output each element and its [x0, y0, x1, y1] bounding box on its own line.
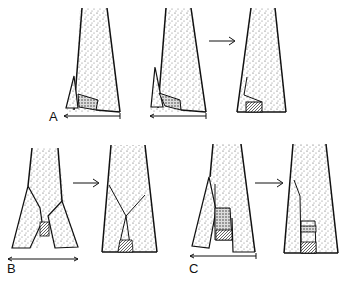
panel-a-step-1	[64, 8, 120, 119]
panel-c-label: C	[189, 261, 198, 276]
arrow-c	[255, 179, 283, 187]
panel-c-step-2	[284, 144, 338, 253]
panel-a-label: A	[49, 109, 58, 124]
diagram-canvas: B A C	[0, 0, 340, 283]
panel-c-step-1	[190, 144, 256, 259]
panel-a-step-3	[237, 8, 286, 112]
arrow-a	[209, 37, 235, 45]
panel-b-step-1	[8, 148, 78, 261]
panel-a-step-2	[150, 8, 206, 119]
panel-b-step-2	[102, 145, 157, 252]
arrow-b	[73, 179, 99, 187]
panel-b-label: B	[7, 261, 16, 276]
